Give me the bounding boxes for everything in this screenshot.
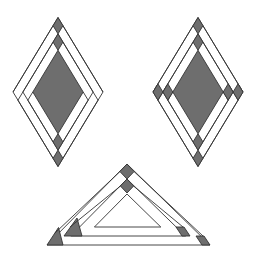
diamond-left-figure [13, 18, 103, 167]
diagram-svg [0, 0, 253, 256]
quilt-diagram [0, 0, 253, 256]
diamond-right-figure [153, 18, 243, 167]
triangle-figure [47, 164, 210, 245]
corner-left-outer [47, 228, 63, 246]
